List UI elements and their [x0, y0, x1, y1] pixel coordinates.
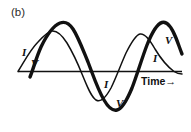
voltage-waveform-v: [30, 22, 182, 110]
waveform-plot: [0, 0, 191, 132]
panel-label: (b): [11, 6, 25, 18]
curve-label-i-left: I: [22, 46, 26, 58]
curve-label-i-middle: I: [104, 78, 108, 90]
time-axis-label: Time→: [141, 75, 176, 87]
curve-label-v-left: V: [31, 57, 38, 69]
arrow-right-icon: →: [165, 76, 176, 87]
time-axis-label-text: Time: [141, 75, 165, 87]
curve-label-v-right: V: [165, 34, 172, 46]
figure-panel: (b) I V I V V I Time→: [0, 0, 191, 132]
curve-label-i-right: I: [153, 52, 157, 64]
curve-label-v-middle: V: [116, 97, 123, 109]
